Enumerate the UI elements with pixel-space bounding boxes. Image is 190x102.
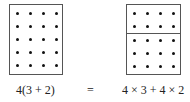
dot bbox=[55, 38, 58, 41]
dot bbox=[146, 12, 149, 15]
dot bbox=[146, 65, 149, 68]
dot bbox=[55, 51, 58, 54]
left-dot-array bbox=[9, 4, 63, 75]
dot bbox=[29, 12, 32, 15]
dot bbox=[159, 12, 162, 15]
dot bbox=[159, 39, 162, 42]
dot bbox=[55, 64, 58, 67]
equals-sign: = bbox=[87, 83, 94, 98]
dot bbox=[133, 52, 136, 55]
dot bbox=[29, 38, 32, 41]
dot bbox=[172, 25, 175, 28]
dot bbox=[172, 65, 175, 68]
dot bbox=[16, 25, 19, 28]
right-expression: 4 × 3 + 4 × 2 bbox=[122, 83, 184, 98]
dot bbox=[42, 38, 45, 41]
dot bbox=[133, 39, 136, 42]
dot bbox=[16, 51, 19, 54]
dot bbox=[42, 12, 45, 15]
dot bbox=[146, 39, 149, 42]
dot bbox=[55, 12, 58, 15]
dot bbox=[172, 52, 175, 55]
dot bbox=[42, 25, 45, 28]
dot bbox=[159, 52, 162, 55]
dot bbox=[16, 64, 19, 67]
dot bbox=[55, 25, 58, 28]
left-expression: 4(3 + 2) bbox=[16, 83, 55, 98]
dot bbox=[133, 12, 136, 15]
dot bbox=[172, 39, 175, 42]
dot bbox=[159, 25, 162, 28]
dot bbox=[159, 65, 162, 68]
array-divider bbox=[127, 33, 180, 34]
right-dot-array bbox=[126, 4, 181, 75]
dot bbox=[29, 25, 32, 28]
dot bbox=[146, 25, 149, 28]
dot bbox=[29, 51, 32, 54]
dot bbox=[29, 64, 32, 67]
dot bbox=[42, 64, 45, 67]
dot bbox=[16, 38, 19, 41]
dot bbox=[42, 51, 45, 54]
dot bbox=[133, 65, 136, 68]
dot bbox=[146, 52, 149, 55]
dot bbox=[133, 25, 136, 28]
dot bbox=[16, 12, 19, 15]
dot bbox=[172, 12, 175, 15]
